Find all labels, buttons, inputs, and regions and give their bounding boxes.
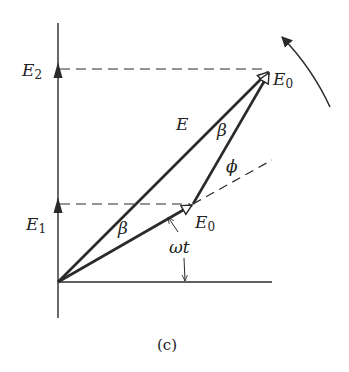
counterclockwise-arrow-icon [282, 37, 330, 107]
e0-lower-label: E0 [194, 212, 215, 234]
resultant-label-e: E [175, 114, 189, 134]
omega-t-label: ωt [169, 237, 190, 257]
figure-caption: (c) [157, 336, 177, 354]
up-arrow-icon [54, 62, 63, 78]
e1-label: E1 [25, 214, 46, 236]
e2-label: E2 [21, 60, 42, 82]
omega-t-pointer-upper [168, 217, 178, 232]
phasor-diagram: E2 E1 E E0 E0 β β ϕ ωt (c) [0, 0, 349, 372]
phi-label: ϕ [226, 156, 238, 176]
e0-upper-label: E0 [272, 69, 293, 91]
resultant-vector-e [58, 72, 268, 282]
up-arrow-icon [54, 197, 63, 213]
beta-upper-label: β [216, 120, 227, 140]
omega-t-pointer-lower [184, 258, 185, 281]
e0-vector-upper [193, 73, 269, 204]
beta-lower-label: β [117, 218, 128, 238]
